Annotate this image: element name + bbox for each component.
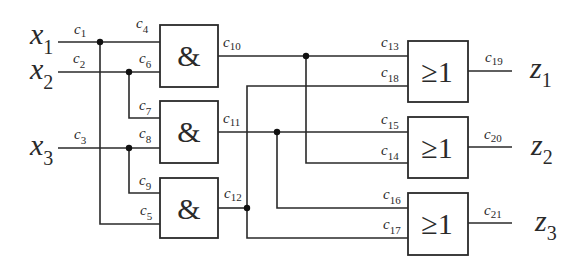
input-label-x3: x3 <box>29 128 53 169</box>
junction-dot <box>303 53 309 59</box>
label-c8: c8 <box>139 125 152 145</box>
and-symbol: & <box>177 39 200 72</box>
label-c7: c7 <box>139 97 152 117</box>
label-c4: c4 <box>136 15 149 35</box>
io-labels: x1 x2 x3 z1 z2 z3 <box>29 17 557 244</box>
label-c3: c3 <box>74 126 87 146</box>
label-c18: c18 <box>381 64 399 84</box>
junction-dot <box>126 145 132 151</box>
label-c15: c15 <box>381 111 399 131</box>
label-c20: c20 <box>484 126 502 144</box>
and-symbol: & <box>177 192 200 225</box>
and-gate-1: & <box>160 25 218 87</box>
output-label-z2: z2 <box>530 128 553 168</box>
and-symbol: & <box>177 115 200 148</box>
label-c21: c21 <box>484 202 502 220</box>
label-c9: c9 <box>139 172 152 192</box>
or-symbol: ≥1 <box>421 131 452 164</box>
label-c2: c2 <box>73 50 85 70</box>
or-symbol: ≥1 <box>421 207 452 240</box>
output-wires <box>468 71 512 223</box>
label-c13: c13 <box>381 34 399 52</box>
label-c14: c14 <box>381 142 399 162</box>
label-c17: c17 <box>383 216 401 236</box>
and-gate-2: & <box>160 101 218 163</box>
or-gate-2: ≥1 <box>408 117 468 178</box>
junction-dot <box>97 39 103 45</box>
middle-wires <box>218 53 408 238</box>
input-label-x2: x2 <box>29 52 53 93</box>
junction-dot <box>126 69 132 75</box>
and-gate-3: & <box>160 178 218 238</box>
label-c5: c5 <box>140 202 153 222</box>
output-label-z3: z3 <box>534 204 557 244</box>
junction-dot <box>244 205 250 211</box>
label-c16: c16 <box>383 186 401 206</box>
output-label-z1: z1 <box>529 51 552 91</box>
or-gate-1: ≥1 <box>408 41 468 102</box>
label-c11: c11 <box>223 110 240 128</box>
label-c19: c19 <box>485 49 503 67</box>
label-c6: c6 <box>139 50 152 70</box>
junction-dot <box>274 129 280 135</box>
or-gate-3: ≥1 <box>408 193 468 255</box>
logic-circuit-diagram: & & & ≥1 ≥1 ≥1 x1 x2 x3 z1 z2 z3 c1 c2 c… <box>0 0 588 269</box>
label-c1: c1 <box>74 21 86 39</box>
label-c12: c12 <box>224 185 242 203</box>
or-symbol: ≥1 <box>421 55 452 88</box>
label-c10: c10 <box>223 34 241 52</box>
